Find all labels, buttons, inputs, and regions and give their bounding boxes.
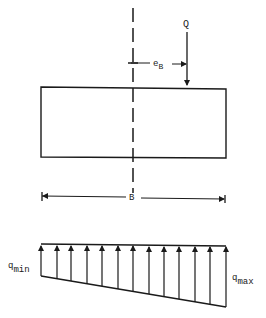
width-label: B (129, 193, 135, 203)
footing-diagram: Q eB B (0, 0, 266, 318)
q-max-label: qmax (232, 273, 254, 287)
eccentricity-label: eB (153, 59, 163, 71)
pressure-diagram: qmin qmax (8, 244, 254, 307)
q-min-label: qmin (8, 261, 30, 275)
load-arrow: Q (183, 19, 189, 85)
eccentricity-dimension: eB (128, 59, 186, 71)
load-label: Q (183, 19, 189, 30)
diagram-canvas: Q eB B (0, 0, 266, 318)
pressure-arrows (41, 246, 226, 307)
width-dimension: B (42, 192, 225, 203)
